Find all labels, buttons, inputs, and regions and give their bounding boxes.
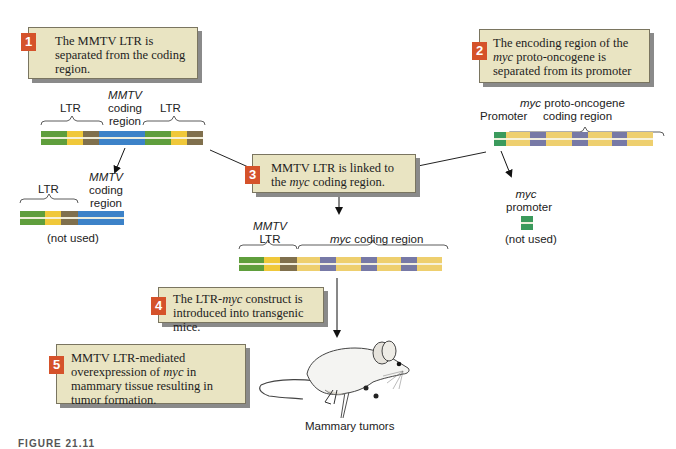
label-text: coding region bbox=[351, 233, 423, 245]
myc-coding-label-line2: coding region bbox=[543, 110, 612, 123]
gene-name: myc bbox=[222, 292, 242, 306]
unused-promoter-bar bbox=[521, 216, 533, 230]
myc-intron-segment bbox=[612, 132, 627, 146]
label-text: proto-oncogene bbox=[541, 97, 625, 109]
myc-exon-segment bbox=[297, 257, 320, 271]
label-line: coding bbox=[86, 184, 126, 197]
promoter-segment bbox=[521, 216, 533, 230]
mouse-illustration bbox=[255, 338, 420, 418]
step-text: proto-oncogene is separated from its pro… bbox=[493, 50, 632, 78]
step-badge: 2 bbox=[472, 42, 487, 60]
unused-note: (not used) bbox=[47, 232, 99, 245]
ltr-segment bbox=[239, 257, 264, 271]
unused-mmtv-coding-label: MMTV coding region bbox=[86, 171, 126, 210]
step-3-box: 3 MMTV LTR is linked to the myc coding r… bbox=[252, 154, 416, 193]
myc-gene-bar bbox=[494, 132, 653, 146]
mmtv-coding-segment bbox=[78, 211, 124, 225]
step-1-text: The MMTV LTR is separated from the codin… bbox=[55, 34, 185, 76]
ltr-segment bbox=[171, 131, 187, 145]
label-line: LTR bbox=[252, 233, 288, 246]
gene-name: myc bbox=[493, 50, 513, 64]
gene-name: myc bbox=[520, 97, 541, 109]
myc-exon-segment bbox=[377, 257, 401, 271]
ltr-segment bbox=[264, 257, 280, 271]
myc-intron-segment bbox=[320, 257, 336, 271]
gene-name: myc bbox=[163, 365, 183, 379]
myc-exon-segment bbox=[417, 257, 442, 271]
myc-promoter-label: myc promoter bbox=[506, 188, 546, 214]
ltr-segment bbox=[187, 131, 203, 145]
label-line: coding bbox=[105, 102, 145, 115]
mmtv-gene-bar bbox=[41, 131, 203, 145]
step-text: coding region. bbox=[310, 175, 385, 189]
mmtv-coding-segment bbox=[99, 131, 145, 145]
ltr-segment bbox=[83, 131, 99, 145]
ltr-segment bbox=[145, 131, 171, 145]
promoter-label: Promoter bbox=[480, 110, 527, 123]
ltr-myc-construct-bar bbox=[239, 257, 442, 271]
step-badge: 1 bbox=[21, 33, 36, 51]
ltr-right-label: LTR bbox=[160, 102, 181, 115]
step-badge: 4 bbox=[151, 297, 166, 315]
step-1-box: 1 The MMTV LTR is separated from the cod… bbox=[28, 27, 198, 79]
myc-intron-segment bbox=[530, 132, 546, 146]
ltr-segment bbox=[45, 211, 61, 225]
label-line: MMTV bbox=[252, 220, 288, 233]
myc-exon-segment bbox=[336, 257, 361, 271]
myc-exon-segment bbox=[588, 132, 612, 146]
label-line: MMTV bbox=[105, 89, 145, 102]
step-badge: 3 bbox=[245, 166, 260, 184]
label-line: myc bbox=[506, 188, 546, 201]
label-line: MMTV bbox=[86, 171, 126, 184]
mmtv-coding-label: MMTV coding region bbox=[105, 89, 145, 128]
unused-mmtv-bar bbox=[20, 211, 124, 225]
unused-ltr-label: LTR bbox=[38, 183, 59, 196]
label-line: region bbox=[105, 115, 145, 128]
construct-coding-label: myc coding region bbox=[330, 233, 423, 246]
ltr-segment bbox=[41, 131, 67, 145]
step-2-box: 2 The encoding region of the myc proto-o… bbox=[479, 29, 650, 83]
myc-exon-segment bbox=[506, 132, 530, 146]
myc-exon-segment bbox=[546, 132, 572, 146]
gene-name: myc bbox=[330, 233, 351, 245]
myc-intron-segment bbox=[361, 257, 377, 271]
promoter-segment bbox=[494, 132, 506, 146]
myc-coding-label-line1: myc proto-oncogene bbox=[520, 97, 625, 110]
mammary-tumors-label: Mammary tumors bbox=[305, 420, 394, 433]
label-line: promoter bbox=[506, 201, 546, 214]
gene-name: myc bbox=[289, 175, 309, 189]
myc-exon-segment bbox=[627, 132, 653, 146]
step-4-box: 4 The LTR-myc construct is introduced in… bbox=[158, 287, 324, 323]
figure-caption: FIGURE 21.11 bbox=[18, 438, 95, 449]
step-badge: 5 bbox=[49, 356, 64, 374]
unused-note: (not used) bbox=[505, 233, 557, 246]
ltr-segment bbox=[20, 211, 45, 225]
label-line: region bbox=[86, 197, 126, 210]
ltr-segment bbox=[67, 131, 83, 145]
myc-intron-segment bbox=[401, 257, 417, 271]
ltr-left-label: LTR bbox=[60, 102, 81, 115]
step-text: The encoding region of the bbox=[493, 36, 628, 50]
myc-intron-segment bbox=[572, 132, 588, 146]
ltr-segment bbox=[280, 257, 297, 271]
step-text: The LTR- bbox=[173, 292, 222, 306]
ltr-segment bbox=[61, 211, 78, 225]
construct-ltr-label: MMTV LTR bbox=[252, 220, 288, 246]
step-5-box: 5 MMTV LTR-mediated overexpression of my… bbox=[56, 344, 246, 404]
